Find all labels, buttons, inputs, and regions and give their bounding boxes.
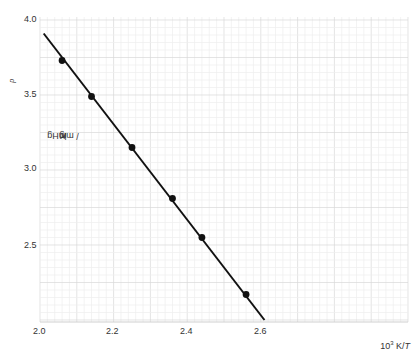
data-point	[88, 93, 95, 100]
x-tick-2.2: 2.2	[106, 326, 119, 336]
data-point	[243, 291, 250, 298]
y-tick-3.0: 3.0	[24, 163, 37, 173]
data-point	[59, 57, 66, 64]
x-axis-label: 103 K/T	[380, 340, 410, 351]
data-point	[129, 144, 136, 151]
grid	[40, 17, 408, 322]
y-tick-3.5: 3.5	[24, 89, 37, 99]
x-tick-2.0: 2.0	[33, 326, 46, 336]
data-point	[169, 195, 176, 202]
x-tick-2.6: 2.6	[254, 326, 267, 336]
y-axis-label: lg Kp / mmHg	[4, 20, 18, 140]
y-tick-4.0: 4.0	[24, 14, 37, 24]
data-point	[199, 234, 206, 241]
x-tick-2.4: 2.4	[180, 326, 193, 336]
y-tick-2.5: 2.5	[24, 240, 37, 250]
plot-area	[0, 0, 418, 356]
